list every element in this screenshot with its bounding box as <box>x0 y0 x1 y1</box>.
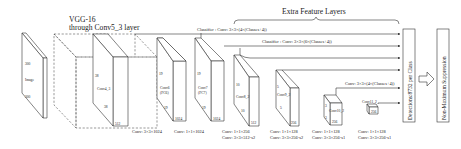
extra-feature-layers-label: Extra Feature Layers <box>282 7 346 16</box>
conv8-op2: Conv: 3×3×512-s2 <box>222 135 255 140</box>
ssd-architecture-diagram: 300 Image 300 VGG-16 through Conv5_3 lay… <box>0 0 461 149</box>
svg-text:1024: 1024 <box>175 117 182 121</box>
conv8-2-label: Conv8_2 <box>236 95 249 99</box>
classifier-label-3: Conv: 3×3×(4×(Classes+4)) <box>345 81 395 86</box>
vgg-label-line2: through Conv5_3 layer <box>69 23 140 32</box>
conv9-op1: Conv: 1×1×128 <box>270 129 299 134</box>
conv8-2-block: 10 Conv8_2 10 512 <box>234 55 259 126</box>
svg-text:19: 19 <box>202 106 206 110</box>
conv9-2-block: 5 Conv9_2 5 256 <box>276 70 299 126</box>
svg-text:256: 256 <box>291 121 297 125</box>
conv4-3-block: 38 Conv4_3 38 512 <box>93 34 128 126</box>
classifier-line-conv11-2 <box>378 103 400 104</box>
extra-layers-brace <box>234 17 399 24</box>
svg-text:19: 19 <box>197 72 201 76</box>
conv7-block: 19 Conv7 (FC7) 19 1024 <box>195 38 224 121</box>
svg-text:5: 5 <box>280 106 282 110</box>
conv10-op1: Conv: 1×1×128 <box>312 129 341 134</box>
input-dim-top: 300 <box>25 62 31 66</box>
detections-label: Detections:8732 per Class <box>407 61 413 120</box>
svg-text:1024: 1024 <box>213 117 220 121</box>
conv11-op2: Conv: 3×3×256-s1 <box>358 135 391 140</box>
svg-text:512: 512 <box>251 121 257 125</box>
nms-label: Non-Maximum Suppression <box>441 56 447 120</box>
conv8-op1: Conv: 1×1×256 <box>222 129 251 134</box>
classifier-label-1: Classifier : Conv: 3×3×(4×(Classes+4)) <box>197 27 267 32</box>
svg-text:256: 256 <box>371 110 377 114</box>
svg-text:(FC6): (FC6) <box>160 91 169 95</box>
conv7-op: Conv: 1×1×1024 <box>174 129 205 134</box>
svg-text:(FC7): (FC7) <box>198 91 207 95</box>
svg-text:256: 256 <box>332 120 338 124</box>
conv10-op2: Conv: 3×3×256-s1 <box>312 135 345 140</box>
svg-text:38: 38 <box>104 105 108 109</box>
input-label: Image <box>25 78 34 82</box>
svg-text:5: 5 <box>277 85 279 89</box>
svg-text:10: 10 <box>236 83 240 87</box>
conv9-2-label: Conv9_2 <box>277 93 290 97</box>
svg-text:19: 19 <box>159 72 163 76</box>
svg-text:19: 19 <box>164 106 168 110</box>
conv11-2-block: Conv11_2 256 <box>362 100 378 114</box>
svg-text:3: 3 <box>325 116 327 120</box>
conv10-2-block: 3 Conv10_2 3 256 <box>324 95 344 125</box>
conv11-op1: Conv: 1×1×128 <box>358 129 387 134</box>
conv9-op2: Conv: 3×3×256-s2 <box>270 135 303 140</box>
input-dim-bottom: 300 <box>25 95 31 99</box>
classifier-line-conv8-2 <box>240 48 400 58</box>
output-arrow-icon <box>419 72 434 86</box>
svg-text:38: 38 <box>95 74 99 78</box>
conv6-block: 19 Conv6 (FC6) 19 1024 <box>157 38 186 121</box>
classifier-label-2: Classifier : Conv: 3×3×(6×(Classes+4)) <box>262 39 332 44</box>
svg-text:10: 10 <box>241 109 245 113</box>
svg-text:3: 3 <box>325 104 327 108</box>
conv6-op: Conv: 3×3×1024 <box>132 129 163 134</box>
conv11-2-label: Conv11_2 <box>362 100 377 104</box>
svg-text:512: 512 <box>115 122 121 126</box>
classifier-line-conv10-2 <box>336 88 400 95</box>
conv10-2-label: Conv10_2 <box>329 109 344 113</box>
conv7-label: Conv7 <box>198 86 208 90</box>
conv6-label: Conv6 <box>160 86 170 90</box>
input-image-block: 300 Image 300 <box>22 33 47 118</box>
conv4-3-label: Conv4_3 <box>97 87 110 91</box>
